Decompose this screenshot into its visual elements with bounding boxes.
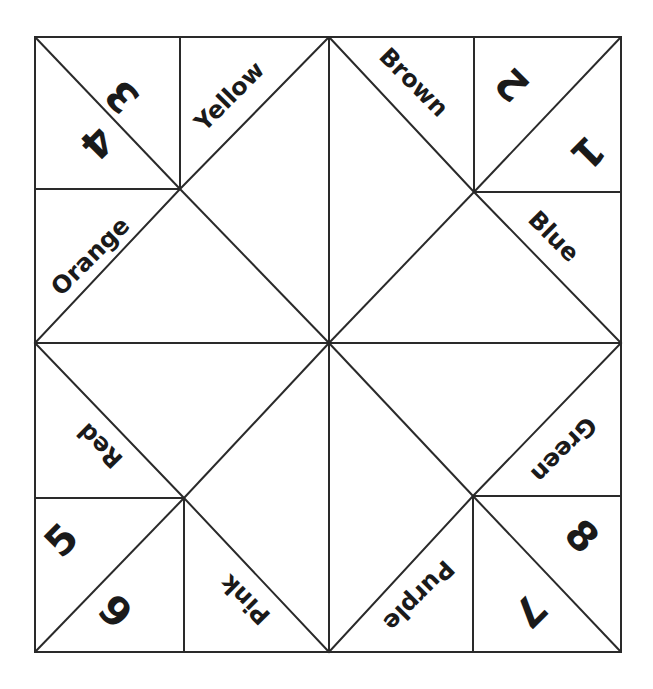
label-blue: Blue bbox=[523, 205, 585, 267]
label-orange: Orange bbox=[45, 211, 135, 301]
spoke-top-right bbox=[329, 192, 474, 343]
spoke-bottom-right bbox=[329, 343, 473, 496]
label-pink: Pink bbox=[214, 568, 276, 630]
label-purple: Purple bbox=[378, 555, 460, 637]
label-green: Green bbox=[525, 411, 602, 488]
label-brown: Brown bbox=[373, 42, 454, 123]
label-red: Red bbox=[72, 417, 129, 474]
spoke-bottom-left bbox=[184, 343, 329, 498]
number-5: 5 bbox=[35, 514, 87, 566]
number-7: 7 bbox=[504, 585, 556, 637]
label-yellow: Yellow bbox=[188, 56, 270, 138]
spoke-top-left bbox=[180, 189, 329, 343]
number-6: 6 bbox=[90, 585, 142, 637]
number-4: 4 bbox=[71, 117, 123, 169]
fortune-teller-sheet: Yellow Brown Orange Blue Red Green Pink … bbox=[0, 0, 653, 689]
number-1: 1 bbox=[562, 127, 614, 179]
number-3: 3 bbox=[96, 71, 148, 123]
number-2: 2 bbox=[486, 59, 538, 111]
number-8: 8 bbox=[556, 510, 608, 562]
